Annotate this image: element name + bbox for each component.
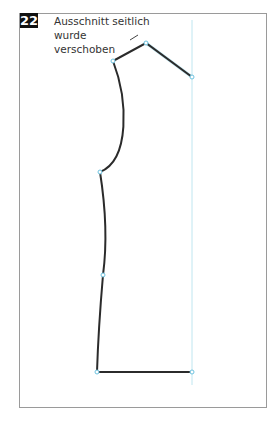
point-hem-left	[95, 370, 99, 374]
point-shoulder-right	[190, 75, 194, 79]
shift-marker-tick	[130, 35, 138, 40]
point-side-mid	[101, 273, 105, 277]
point-armhole-bottom	[98, 170, 102, 174]
armhole-curve	[100, 61, 124, 172]
point-hem-right	[190, 370, 194, 374]
side-seam-lower	[97, 275, 103, 372]
pattern-drawing	[0, 0, 277, 424]
point-neck-left	[111, 59, 115, 63]
shoulder-line	[113, 43, 192, 77]
side-seam-upper	[100, 172, 105, 275]
point-shoulder-apex	[144, 41, 148, 45]
